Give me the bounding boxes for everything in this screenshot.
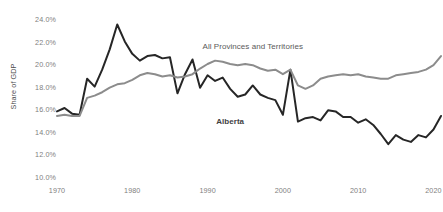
chart-container: Share of GDP 24.0%22.0%20.0%18.0%16.0%14… — [0, 0, 443, 212]
series-label: Alberta — [216, 117, 244, 126]
series-label: All Provinces and Territories — [203, 42, 303, 51]
series-line — [57, 56, 441, 116]
plot-area — [0, 0, 443, 212]
